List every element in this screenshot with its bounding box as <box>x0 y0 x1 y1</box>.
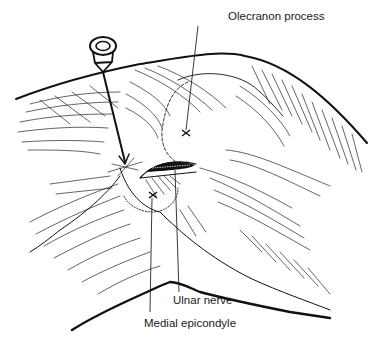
hatching-lower-right <box>200 150 330 294</box>
elbow-injection-diagram: Olecranon process Ulnar nerve Medial epi… <box>0 0 381 338</box>
olecranon-leader-line <box>186 26 198 130</box>
medial-epicondyle-leader-line <box>150 198 152 312</box>
medial-crease <box>30 176 120 252</box>
olecranon-rounded-border <box>162 82 188 162</box>
illustration-canvas <box>0 0 381 338</box>
ulnar-nerve-label: Ulnar nerve <box>173 295 232 307</box>
upper-skin-contour <box>16 54 367 143</box>
hatching-upper-middle <box>126 66 226 138</box>
needle-hub-inner-ring <box>96 42 110 51</box>
hatching-lower-left <box>30 176 160 294</box>
olecranon-process-label: Olecranon process <box>228 11 325 23</box>
ulnar-nerve-leader-line <box>175 170 179 292</box>
hatching-upper-left <box>18 86 120 154</box>
olecranon-x-marker <box>182 130 190 136</box>
medial-epicondyle-label: Medial epicondyle <box>144 318 236 330</box>
medial-epicondyle-x-marker <box>149 192 157 198</box>
needle-shaft <box>103 72 125 162</box>
